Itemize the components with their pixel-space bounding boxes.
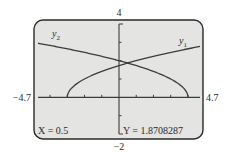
x-readout: X = 0.5	[38, 125, 68, 136]
y-min-label: −2	[114, 141, 125, 152]
x-min-label: −4.7	[13, 92, 31, 103]
y-max-label: 4	[117, 7, 122, 18]
y-readout: Y = 1.8708287	[123, 125, 183, 136]
calculator-graph: 4 −2 −4.7 4.7 y2 y1 X = 0.5 Y = 1.870828…	[0, 0, 230, 153]
x-max-label: 4.7	[206, 92, 219, 103]
